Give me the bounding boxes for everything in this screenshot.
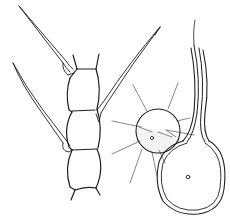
- flask-inner-wall: [161, 143, 221, 210]
- figure-svg: [0, 0, 230, 219]
- flask-cell-group: [157, 20, 225, 214]
- bristle-left: [13, 63, 72, 152]
- cell-1: [67, 54, 99, 112]
- cell-2: [67, 109, 101, 150]
- bristle-top-left: [19, 6, 74, 75]
- flask-nucleus: [186, 175, 190, 179]
- illustration-canvas: [0, 0, 230, 219]
- spherical-cell-group: [112, 83, 194, 183]
- filament-group: [13, 6, 160, 200]
- bristle-right: [96, 27, 160, 122]
- cell-3: [67, 149, 100, 200]
